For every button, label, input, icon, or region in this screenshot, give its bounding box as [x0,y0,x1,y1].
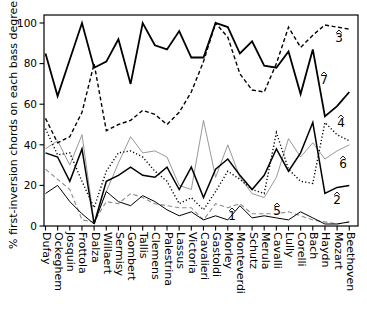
y-tick-label: 0 [30,220,37,232]
y-tick-label: 40 [24,139,37,151]
x-tick-label-victoria: Victoria [186,232,199,274]
y-tick-label: 20 [24,179,37,191]
label-scale-degree-1: 1 [228,209,236,223]
x-tick-label-gastoldi: Gastoldi [210,232,223,277]
x-tick-label-palestrina: Palestrina [162,232,175,286]
x-tick-label-corelli: Corelli [295,232,308,267]
plot-frame [44,15,358,226]
x-tick-label-willaert: Willaert [101,232,114,275]
x-tick-label-ockeghem: Ockeghem [52,232,65,291]
x-tick-label-josquin: Josquin [64,231,77,272]
x-tick-label-cavalieri: Cavalieri [198,232,211,280]
y-axis-ticks: 020406080100 [17,17,44,232]
x-tick-label-schutz: Schutz [247,232,260,269]
label-scale-degree-3: 3 [335,31,343,45]
x-tick-label-beethoven: Beethoven [344,232,357,291]
x-tick-label-tallis: Tallis [137,231,150,259]
series-lines [46,23,350,224]
label-scale-degree-7: 7 [320,73,328,87]
x-tick-label-morley: Morley [222,232,235,270]
y-tick-label: 80 [24,57,37,69]
figure-container: % first-inversion chords on each bass de… [0,0,367,312]
series-line-scale-degree-2 [46,123,350,225]
y-tick-label: 60 [24,98,37,110]
x-tick-label-dufay: Dufay [40,232,53,265]
y-axis-title: % first-inversion chords on each bass de… [7,1,20,249]
x-tick-label-lassus: Lassus [174,232,187,269]
label-scale-degree-6: 6 [339,157,347,171]
label-scale-degree-5: 5 [273,204,281,218]
x-tick-label-sermisy: Sermisy [113,232,126,277]
x-tick-label-mozart: Mozart [332,232,345,270]
x-tick-label-clemens: Clemens [149,232,162,280]
x-tick-label-cavalli: Cavalli [271,232,284,269]
label-scale-degree-2: 2 [333,193,341,207]
x-tick-label-lully: Lully [283,232,296,258]
x-tick-label-merula: Merula [259,232,272,270]
series-line-scale-degree-4 [46,123,350,210]
x-tick-label-monteverdi: Monteverdi [234,232,247,294]
chart-canvas: % first-inversion chords on each bass de… [0,0,367,312]
x-tick-label-dalza: Dalza [89,232,102,263]
x-tick-label-bach: Bach [307,232,320,259]
series-line-scale-degree-7 [46,23,350,116]
x-tick-label-haydn: Haydn [319,232,332,268]
x-tick-label-frottola: Frottola [76,232,89,274]
y-tick-label: 100 [17,17,37,29]
x-tick-label-gombert: Gombert [125,232,138,281]
x-axis-ticks: DufayOckeghemJosquinFrottolaDalzaWillaer… [40,226,357,294]
label-scale-degree-4: 4 [337,116,345,130]
